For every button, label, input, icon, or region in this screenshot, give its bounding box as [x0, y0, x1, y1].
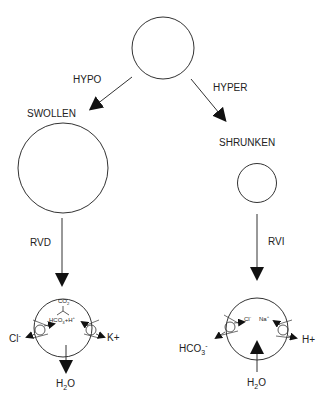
cl-out-label: Cl-: [9, 332, 21, 344]
rvi-right-transporter-icon: [278, 325, 288, 335]
na-in-label: Na+: [259, 314, 269, 322]
co2-label: CO2: [58, 298, 69, 306]
rvi-water-label: H2O: [247, 377, 266, 390]
cl-in-label: Cl-: [244, 314, 251, 322]
swollen-cell: [18, 123, 108, 213]
hco3-h-label: HCO3+H+: [49, 315, 75, 325]
hyper-label: HYPER: [213, 82, 247, 93]
shrunken-label: SHRUNKEN: [219, 137, 275, 148]
k-out-label: K+: [107, 332, 120, 343]
hypo-label: HYPO: [73, 74, 101, 85]
shrunken-cell: [238, 164, 277, 203]
rvd-water-label: H2O: [56, 378, 75, 391]
rvd-label: RVD: [30, 237, 51, 248]
hco3-out-label: HCO3-: [179, 342, 207, 356]
rvd-left-transporter-icon: [35, 325, 45, 335]
rvi-label: RVI: [268, 236, 285, 247]
swollen-label: SWOLLEN: [27, 108, 76, 119]
normal-cell: [132, 17, 194, 79]
diagram-canvas: [0, 0, 326, 398]
h-out-label: H+: [302, 334, 315, 345]
